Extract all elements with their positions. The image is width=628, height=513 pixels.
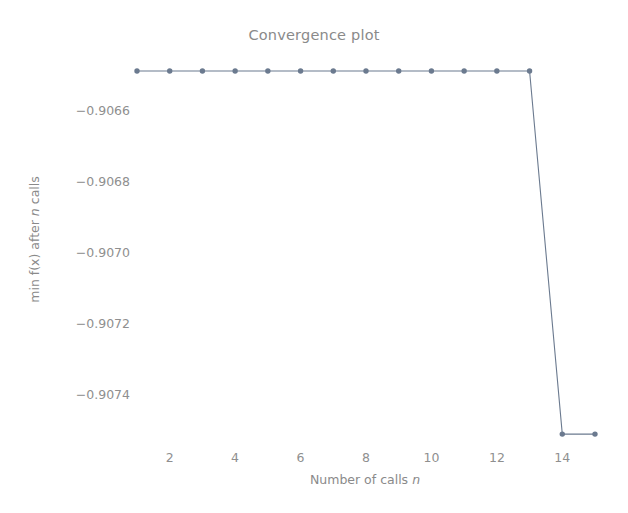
- x-tick-label: 2: [150, 450, 190, 465]
- y-tick-label: −0.9074: [46, 387, 130, 402]
- x-tick-label: 8: [346, 450, 386, 465]
- y-axis-label-variable: n: [27, 208, 42, 216]
- x-tick-label: 4: [215, 450, 255, 465]
- data-point: [592, 431, 597, 436]
- data-point: [298, 68, 303, 73]
- data-point: [134, 68, 139, 73]
- x-tick-label: 10: [411, 450, 451, 465]
- data-point: [331, 68, 336, 73]
- y-axis-label: min f(x) after n calls: [27, 140, 42, 340]
- convergence-markers: [134, 68, 597, 437]
- x-axis-label-variable: n: [412, 472, 420, 487]
- convergence-line: [137, 71, 595, 434]
- data-point: [232, 68, 237, 73]
- x-tick-label: 12: [477, 450, 517, 465]
- data-point: [265, 68, 270, 73]
- data-point: [396, 68, 401, 73]
- data-point: [527, 68, 532, 73]
- data-point: [200, 68, 205, 73]
- x-axis-label: Number of calls n: [130, 472, 600, 487]
- y-axis-tick-labels: −0.9066−0.9068−0.9070−0.9072−0.9074: [46, 0, 130, 513]
- x-axis-label-text: Number of calls: [310, 472, 412, 487]
- data-point: [429, 68, 434, 73]
- data-point: [494, 68, 499, 73]
- y-tick-label: −0.9072: [46, 316, 130, 331]
- x-tick-label: 14: [542, 450, 582, 465]
- y-axis-label-suffix: calls: [27, 176, 42, 208]
- x-tick-label: 6: [281, 450, 321, 465]
- y-tick-label: −0.9070: [46, 245, 130, 260]
- data-point: [461, 68, 466, 73]
- y-tick-label: −0.9066: [46, 103, 130, 118]
- data-point: [560, 431, 565, 436]
- y-axis-label-prefix: min f(x) after: [27, 216, 42, 303]
- data-point: [363, 68, 368, 73]
- y-tick-label: −0.9068: [46, 174, 130, 189]
- convergence-plot-figure: Convergence plot −0.9066−0.9068−0.9070−0…: [0, 0, 628, 513]
- data-point: [167, 68, 172, 73]
